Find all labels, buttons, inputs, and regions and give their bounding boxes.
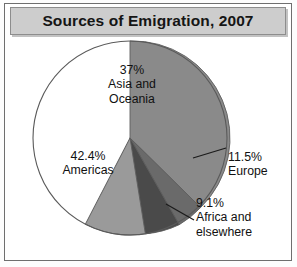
pie-label-africa-name-line1: Africa and [196,210,252,224]
pie-label-americas-name: Americas [38,163,138,177]
pie-label-africa-name-line2: elsewhere [196,225,252,239]
chart-area: 37% Asia and Oceania 42.4% Americas 11.5… [0,36,297,264]
pie-label-asia-name-line1: Asia and [80,77,184,91]
pie-label-americas: 42.4% Americas [38,149,138,178]
pie-label-europe-name: Europe [228,164,268,178]
pie-label-asia-percent: 37% [80,63,184,77]
pie-label-americas-percent: 42.4% [38,149,138,163]
pie-label-europe: 11.5% Europe [228,150,268,179]
pie-chart-figure: Sources of Emigration, 2007 37% Asia and… [0,0,297,267]
pie-label-asia-name-line2: Oceania [80,92,184,106]
pie-label-africa-elsewhere: 9.1% Africa and elsewhere [196,196,252,239]
pie-label-asia-oceania: 37% Asia and Oceania [80,63,184,106]
page-title: Sources of Emigration, 2007 [42,12,253,30]
pie-label-europe-percent: 11.5% [228,150,268,164]
pie-label-africa-percent: 9.1% [196,196,252,210]
chart-title-banner: Sources of Emigration, 2007 [10,7,286,35]
